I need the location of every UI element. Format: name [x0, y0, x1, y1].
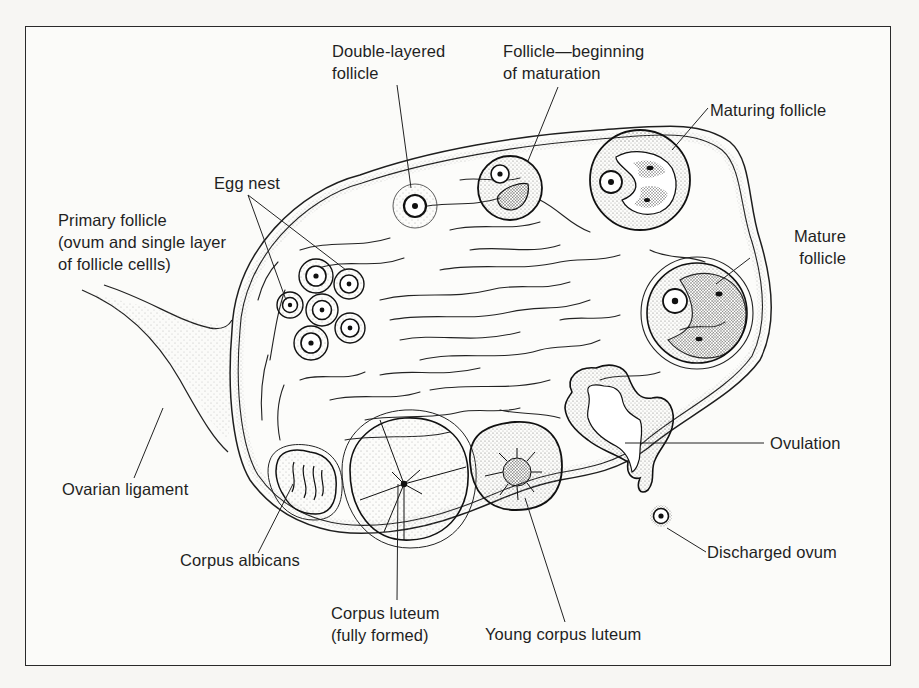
- label-egg-nest: Egg nest: [214, 172, 280, 194]
- label-ovulation: Ovulation: [770, 432, 841, 454]
- label-double-layered-follicle: Double-layered follicle: [332, 40, 445, 84]
- follicle-beginning-maturation-shape: [478, 156, 542, 220]
- label-ovarian-ligament: Ovarian ligament: [62, 478, 188, 500]
- maturing-follicle-shape: [590, 130, 690, 230]
- label-primary-follicle: Primary follicle (ovum and single layer …: [58, 209, 226, 275]
- double-layered-follicle-shape: [393, 184, 437, 228]
- label-maturing-follicle: Maturing follicle: [710, 99, 826, 121]
- label-young-corpus-luteum: Young corpus luteum: [485, 623, 641, 645]
- discharged-ovum-shape: [650, 505, 672, 527]
- label-mature-follicle: Mature follicle: [794, 225, 846, 269]
- label-corpus-albicans: Corpus albicans: [180, 549, 300, 571]
- label-discharged-ovum: Discharged ovum: [707, 541, 837, 563]
- young-corpus-luteum-shape: [470, 422, 562, 510]
- label-corpus-luteum-fully-formed: Corpus luteum (fully formed): [331, 602, 440, 646]
- ovarian-ligament-shape: [82, 285, 240, 452]
- label-follicle-beginning-maturation: Follicle—beginning of maturation: [503, 40, 644, 84]
